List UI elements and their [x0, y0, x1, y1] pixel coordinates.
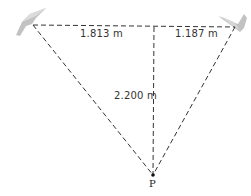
- top-line: [33, 25, 235, 27]
- height-label: 2.200 m: [114, 90, 157, 101]
- left-segment-label: 1.813 m: [80, 28, 123, 39]
- left-bird-icon: [16, 8, 46, 36]
- right-line: [153, 27, 235, 175]
- point-p-marker: [151, 173, 155, 177]
- point-p-label: P: [149, 178, 156, 189]
- right-bird-icon: [218, 14, 247, 32]
- right-segment-label: 1.187 m: [175, 28, 218, 39]
- height-line: [153, 27, 154, 175]
